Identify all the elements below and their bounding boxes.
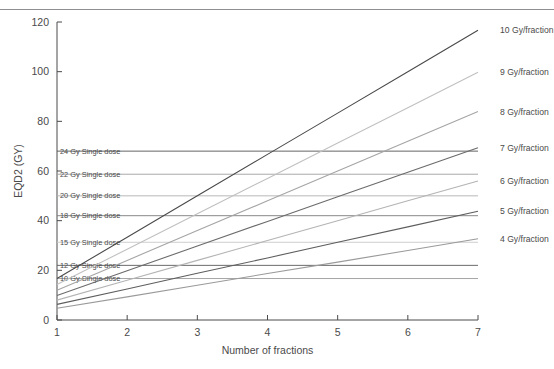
x-tick-label: 1 <box>54 326 60 338</box>
reference-line-label: 18 Gy Single dose <box>60 211 120 220</box>
y-tick-label: 20 <box>37 264 49 276</box>
reference-line-label: 24 Gy Single dose <box>60 147 120 156</box>
x-tick-label: 2 <box>124 326 130 338</box>
reference-line-label: 22 Gy Single dose <box>60 170 120 179</box>
x-tick-label: 6 <box>405 326 411 338</box>
y-tick-label: 0 <box>43 314 49 326</box>
eqd2-line-chart: 0204060801001201234567Number of fraction… <box>0 0 554 369</box>
x-tick-label: 5 <box>335 326 341 338</box>
series-line <box>57 111 478 290</box>
y-axis-title: EQD2 (GY) <box>12 144 24 198</box>
series-label: 8 Gy/fraction <box>500 107 549 117</box>
series-label: 5 Gy/fraction <box>500 206 549 216</box>
x-axis-title: Number of fractions <box>222 344 314 356</box>
y-tick-label: 80 <box>37 115 49 127</box>
x-tick-label: 3 <box>194 326 200 338</box>
series-label: 10 Gy/fraction <box>500 25 554 35</box>
figure-container: 0204060801001201234567Number of fraction… <box>0 0 554 369</box>
reference-line-label: 12 Gy Single dose <box>60 261 120 270</box>
y-tick-label: 40 <box>37 214 49 226</box>
series-line <box>57 211 478 304</box>
series-label: 9 Gy/fraction <box>500 67 549 77</box>
series-label: 6 Gy/fraction <box>500 176 549 186</box>
reference-line-label: 15 Gy Single dose <box>60 238 120 247</box>
reference-line-label: 20 Gy Single dose <box>60 191 120 200</box>
series-label: 7 Gy/fraction <box>500 143 549 153</box>
series-label: 4 Gy/fraction <box>500 234 549 244</box>
x-tick-label: 4 <box>265 326 271 338</box>
y-tick-label: 120 <box>31 16 49 28</box>
y-tick-label: 60 <box>37 165 49 177</box>
x-tick-label: 7 <box>475 326 481 338</box>
y-tick-label: 100 <box>31 65 49 77</box>
